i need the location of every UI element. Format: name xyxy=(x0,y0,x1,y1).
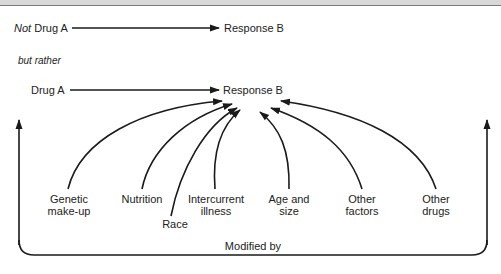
factor-age-size: Age and size xyxy=(269,193,310,217)
arrow-other-drugs xyxy=(281,101,436,189)
row1-target-label: Response B xyxy=(224,22,284,34)
factor-genetic: Genetic make-up xyxy=(48,193,91,217)
factor-intercurrent-illness: Intercurrent illness xyxy=(188,193,244,217)
factor-other-factors: Other factors xyxy=(345,193,378,217)
bracket-label: Modified by xyxy=(225,240,281,252)
row2-target-label: Response B xyxy=(223,84,283,96)
connector-label: but rather xyxy=(18,55,61,67)
not-prefix: Not xyxy=(14,22,31,34)
row2-source-label: Drug A xyxy=(31,84,65,96)
arrow-age xyxy=(260,112,289,189)
factor-race: Race xyxy=(162,218,188,230)
factor-other-drugs: Other drugs xyxy=(422,193,450,217)
row1-drug: Drug A xyxy=(34,22,68,34)
factor-nutrition: Nutrition xyxy=(122,193,163,205)
row1-source-label: Not Drug A xyxy=(14,22,68,34)
diagram-arrows xyxy=(0,0,501,274)
